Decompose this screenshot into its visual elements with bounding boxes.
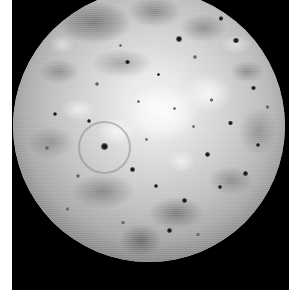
page-canvas [0,0,300,304]
scanline-texture [13,0,285,262]
planetary-disk [13,0,285,262]
photo-frame [12,0,289,290]
margin-right [289,0,300,304]
margin-bottom [0,290,300,304]
margin-left [0,0,12,304]
